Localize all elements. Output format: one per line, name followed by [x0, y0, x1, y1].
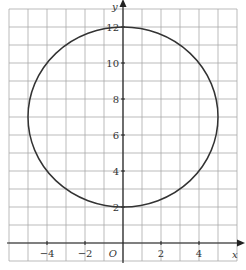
tick-labels: −4−22424681012Oxy [40, 1, 238, 260]
x-axis-label: x [232, 249, 238, 260]
y-axis-arrow-icon [120, 0, 127, 7]
circle-graph: −4−22424681012Oxy [0, 0, 246, 270]
axes [7, 0, 245, 263]
x-tick-label: −4 [40, 248, 55, 259]
y-tick-label: 6 [113, 130, 119, 141]
y-tick-label: 12 [106, 22, 119, 33]
x-tick-label: 4 [196, 248, 202, 259]
y-tick-label: 8 [113, 94, 119, 105]
y-tick-label: 10 [106, 58, 119, 69]
x-axis-arrow-icon [237, 240, 245, 247]
x-tick-label: 2 [158, 248, 164, 259]
origin-label: O [109, 248, 117, 259]
y-tick-label: 4 [113, 166, 119, 177]
y-tick-label: 2 [113, 202, 119, 213]
x-tick-label: −2 [78, 248, 93, 259]
y-axis-label: y [111, 1, 118, 12]
